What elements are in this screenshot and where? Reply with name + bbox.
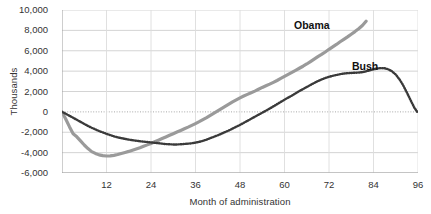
chart-svg — [62, 10, 418, 173]
y-tick-label: 6,000 — [0, 45, 54, 56]
y-tick-label: -2,000 — [0, 126, 54, 137]
x-tick-label: 60 — [279, 179, 290, 190]
chart-container: Thousands -6,000-4,000-2,00002,0004,0006… — [0, 0, 431, 214]
x-tick-label: 84 — [368, 179, 379, 190]
x-tick-label: 96 — [413, 179, 424, 190]
series-label-bush: Bush — [352, 60, 378, 72]
y-tick-label: 0 — [0, 106, 54, 117]
y-tick-label: 4,000 — [0, 65, 54, 76]
y-tick-label: -6,000 — [0, 167, 54, 178]
series-label-obama: Obama — [294, 19, 330, 31]
x-tick-label: 36 — [190, 179, 201, 190]
y-tick-label: 2,000 — [0, 86, 54, 97]
x-tick-label: 72 — [324, 179, 335, 190]
x-tick-label: 48 — [235, 179, 246, 190]
y-tick-label: -4,000 — [0, 147, 54, 158]
x-axis-title: Month of administration — [62, 196, 418, 207]
y-tick-label: 8,000 — [0, 24, 54, 35]
x-tick-label: 24 — [146, 179, 157, 190]
y-axis-tick-labels: -6,000-4,000-2,00002,0004,0006,0008,0001… — [0, 0, 54, 214]
x-tick-label: 12 — [101, 179, 112, 190]
plot-area — [62, 10, 418, 173]
y-tick-label: 10,000 — [0, 4, 54, 15]
